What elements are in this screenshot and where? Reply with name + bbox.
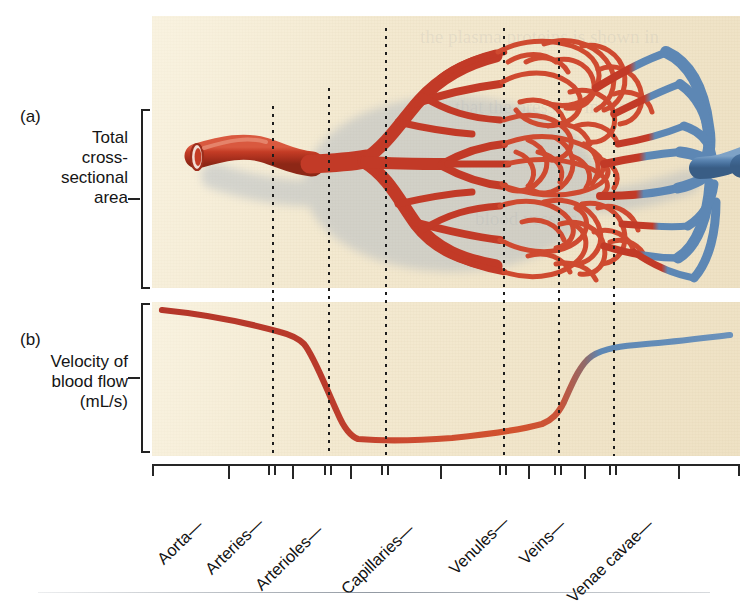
leader-tick-venae-cavae (678, 466, 680, 479)
leader-tick-venules (528, 466, 530, 479)
panel-a-label-line-2: cross- (22, 148, 128, 168)
panel-a-label-line-1: Total (22, 128, 128, 148)
leader-tick-aorta (228, 466, 230, 479)
x-axis-end-left (152, 464, 154, 476)
guide-line-arteries (272, 106, 274, 456)
axis-divider-3a (381, 464, 383, 475)
panel-a-label-line-4: area (22, 188, 128, 208)
leader-tick-arterioles (350, 466, 352, 479)
axis-label-venules-text: Venules (445, 524, 500, 578)
panel-b-label-line-2: blood flow (12, 372, 128, 392)
guide-line-veins (558, 42, 560, 456)
guide-line-venae-cavae (613, 110, 615, 456)
axis-divider-1b (274, 464, 276, 475)
panel-a-label: Total cross- sectional area (22, 128, 128, 208)
guide-line-capillaries (385, 28, 387, 456)
axis-divider-6b (615, 464, 617, 475)
axis-divider-5b (560, 464, 562, 475)
venous-tree (596, 52, 740, 278)
panel-a-tag: (a) (20, 107, 60, 127)
leader-tick-capillaries (440, 466, 442, 479)
axis-divider-3b (387, 464, 389, 475)
axis-divider-5a (554, 464, 556, 475)
guide-line-venules (503, 28, 505, 456)
velocity-line (162, 310, 730, 440)
axis-label-venules: Venules— (445, 513, 512, 578)
panel-b-label: Velocity of blood flow (mL/s) (12, 352, 128, 412)
axis-label-veins: Veins— (515, 516, 568, 568)
page-bottom-rule (38, 592, 710, 593)
leader-tick-veins (584, 466, 586, 479)
axis-label-capillaries: Capillaries— (337, 520, 417, 598)
axis-divider-6a (609, 464, 611, 475)
guide-line-arterioles (328, 88, 330, 456)
axis-divider-2b (330, 464, 332, 475)
axis-label-venae-cavae-text: Venae cavae (563, 526, 644, 605)
panel-b-label-line-3: (mL/s) (12, 392, 128, 412)
axis-label-aorta: Aorta— (153, 517, 206, 569)
axis-divider-4a (499, 464, 501, 475)
axis-divider-4b (505, 464, 507, 475)
x-axis-line (152, 464, 740, 466)
axis-label-arteries: Arteries— (201, 514, 266, 578)
axis-label-capillaries-text: Capillaries (337, 531, 405, 597)
leader-tick-arteries (292, 466, 294, 479)
figure-root: the plasma proteins is shown in that the… (0, 0, 745, 610)
axis-label-arterioles: Arterioles— (251, 521, 325, 594)
bracket-panel-a (134, 109, 150, 289)
axis-divider-2a (324, 464, 326, 475)
panel-b-tag: (b) (20, 330, 60, 350)
axis-divider-1a (268, 464, 270, 475)
axis-label-arteries-text: Arteries (201, 525, 254, 577)
velocity-curve (152, 302, 740, 456)
vascular-illustration (152, 16, 740, 288)
bracket-panel-b (134, 303, 150, 453)
axis-label-arterioles-text: Arterioles (251, 532, 314, 593)
panel-a-label-line-3: sectional (22, 168, 128, 188)
panel-b-label-line-1: Velocity of (12, 352, 128, 372)
x-axis-end-right (738, 464, 740, 476)
